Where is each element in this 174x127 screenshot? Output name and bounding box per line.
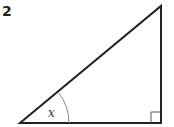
right-triangle-diagram: x <box>0 0 174 127</box>
angle-arc <box>59 93 70 123</box>
triangle <box>20 6 161 123</box>
right-angle-marker <box>151 112 161 123</box>
angle-label: x <box>48 106 55 120</box>
